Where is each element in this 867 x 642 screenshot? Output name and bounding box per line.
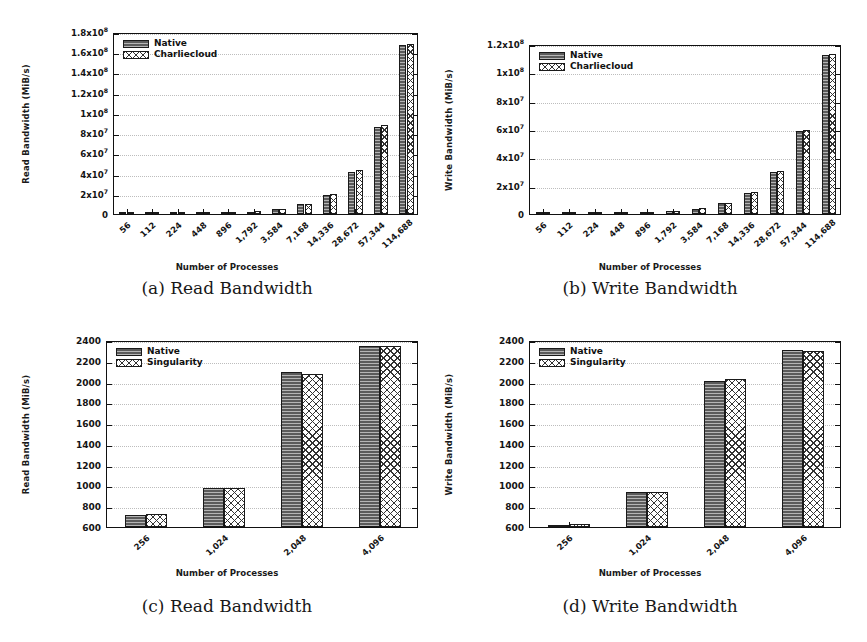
x-tick-mark [829, 209, 830, 214]
x-axis-title: Number of Processes [445, 262, 855, 272]
bar-native-256 [125, 515, 146, 527]
bar-native-2048 [704, 381, 725, 527]
x-axis-tick-label: 1,792 [647, 220, 679, 250]
bar-charliecloud-448 [203, 212, 210, 214]
bar-charliecloud-112 [569, 212, 576, 214]
x-tick-mark [621, 209, 622, 214]
figure-container: 02x1074x1076x1078x1071x1081.2x1081.4x108… [0, 0, 867, 642]
bar-native-896 [640, 212, 647, 214]
bar-singularity-4096 [380, 346, 401, 527]
bar-singularity-256 [146, 514, 167, 527]
bar-group [368, 34, 393, 214]
bar-singularity-1024 [647, 492, 668, 527]
x-axis-tick-label: 3,584 [673, 220, 705, 250]
x-tick-mark [146, 522, 147, 527]
bar-native-28672 [770, 172, 777, 214]
x-tick-mark [355, 209, 356, 214]
y-axis-title: Read Bandwidth (MiB/s) [21, 341, 31, 528]
legend-item: Charliecloud [123, 49, 217, 60]
bar-group [263, 342, 341, 527]
bar-native-3584 [692, 209, 699, 214]
bar-charliecloud-3584 [699, 208, 706, 214]
panel-c-plot-area: 60080010001200140016001800200022002400Re… [22, 318, 432, 568]
panel-b-caption: (b) Write Bandwidth [445, 278, 855, 298]
y-axis-title: Write Bandwidth (MiB/s) [444, 341, 454, 528]
legend-swatch-singularity [116, 359, 142, 367]
bar-group [267, 34, 292, 214]
x-axis-tick-label: 112 [543, 220, 575, 250]
y-axis-tick-label: 1000 [445, 481, 524, 491]
legend-label: Singularity [147, 357, 203, 368]
bar-charliecloud-28672 [356, 170, 363, 214]
y-axis-tick-label: 8x107 [22, 129, 108, 139]
panel-a-legend: NativeCharliecloud [123, 38, 217, 60]
panel-a-plot-frame [113, 33, 418, 215]
bar-singularity-2048 [302, 374, 323, 527]
bar-charliecloud-7168 [725, 203, 732, 214]
bar-group [764, 46, 790, 214]
bar-charliecloud-14336 [751, 192, 758, 214]
x-tick-mark [152, 209, 153, 214]
panel-c-plot-frame [106, 341, 418, 528]
bar-native-224 [588, 212, 595, 214]
y-axis-tick-label: 2000 [22, 378, 101, 388]
x-tick-mark [595, 209, 596, 214]
x-tick-mark [569, 209, 570, 214]
x-axis-tick-label: 2,048 [282, 533, 308, 558]
bar-group [241, 34, 266, 214]
bar-native-896 [221, 212, 228, 214]
bar-native-114688 [399, 45, 406, 214]
legend-item: Charliecloud [539, 61, 633, 72]
legend-swatch-native [539, 348, 565, 356]
y-axis-tick-label: 6x107 [22, 149, 108, 159]
y-axis-tick-label: 1000 [22, 481, 101, 491]
bar-native-2048 [281, 372, 302, 527]
y-axis-title: Write Bandwidth (MiB/s) [444, 45, 454, 215]
bar-group [216, 34, 241, 214]
bar-native-56 [536, 212, 543, 214]
bar-charliecloud-14336 [330, 194, 337, 214]
panel-d: 60080010001200140016001800200022002400Wr… [445, 318, 855, 630]
bar-native-57344 [796, 131, 803, 214]
x-axis-tick-labels: 2561,0242,0484,096 [445, 531, 855, 591]
bar-group [764, 342, 841, 527]
x-axis-tick-label: 448 [595, 220, 627, 250]
bar-native-1792 [247, 212, 254, 214]
panel-a: 02x1074x1076x1078x1071x1081.2x1081.4x108… [22, 8, 432, 308]
panel-d-plot-frame [529, 341, 841, 528]
bar-group [190, 34, 215, 214]
y-axis-tick-label: 800 [445, 502, 524, 512]
panel-c-caption: (c) Read Bandwidth [22, 596, 432, 616]
bar-group [634, 46, 660, 214]
x-axis-tick-label: 1,024 [204, 533, 230, 558]
panel-c-legend: NativeSingularity [116, 346, 203, 368]
y-axis-tick-label: 1400 [445, 440, 524, 450]
bar-charliecloud-3584 [279, 209, 286, 214]
legend-label: Native [570, 346, 603, 357]
x-tick-mark [543, 209, 544, 214]
x-tick-mark [254, 209, 255, 214]
x-axis-tick-label: 1,024 [627, 533, 653, 558]
bar-charliecloud-1792 [673, 211, 680, 214]
bar-charliecloud-1792 [254, 211, 261, 214]
bar-group [317, 34, 342, 214]
y-axis-tick-label: 1800 [445, 398, 524, 408]
bar-charliecloud-896 [647, 212, 654, 214]
x-tick-mark [751, 209, 752, 214]
y-axis-tick-label: 1x108 [22, 109, 108, 119]
x-tick-mark [302, 522, 303, 527]
bar-charliecloud-57344 [803, 130, 810, 214]
bar-group [530, 342, 608, 527]
x-tick-mark [725, 209, 726, 214]
panel-d-caption: (d) Write Bandwidth [445, 596, 855, 616]
bar-charliecloud-896 [229, 212, 236, 214]
x-axis-tick-label: 14,336 [725, 220, 757, 250]
legend-label: Native [154, 38, 187, 49]
y-axis-tick-label: 1800 [22, 398, 101, 408]
panel-d-legend: NativeSingularity [539, 346, 626, 368]
legend-swatch-native [116, 348, 142, 356]
y-axis-tick-label: 6x107 [445, 125, 524, 135]
panel-d-plot-area: 60080010001200140016001800200022002400Wr… [445, 318, 855, 568]
y-axis-tick-label: 1600 [22, 419, 101, 429]
bar-native-57344 [374, 127, 381, 214]
